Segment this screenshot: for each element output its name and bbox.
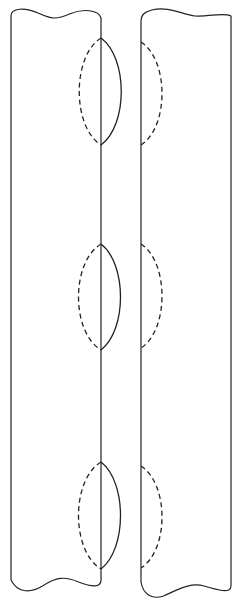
lens-1-solid-arc (101, 38, 121, 145)
half-oval-2-dashed-arc (141, 244, 162, 348)
strip-diagram (0, 0, 237, 611)
lens-2-solid-arc (101, 244, 121, 350)
lens-3-solid-arc (101, 462, 121, 569)
half-oval-1-dashed-arc (141, 42, 162, 145)
left-strip (11, 9, 121, 591)
lens-3-dashed-arc (79, 462, 102, 569)
left-strip-outline (11, 9, 101, 591)
right-strip-outline (141, 9, 231, 597)
lens-2-dashed-arc (79, 244, 102, 350)
diagram-svg (0, 0, 237, 611)
lens-1-dashed-arc (79, 38, 101, 145)
right-strip (141, 9, 231, 597)
half-oval-3-dashed-arc (141, 466, 162, 568)
